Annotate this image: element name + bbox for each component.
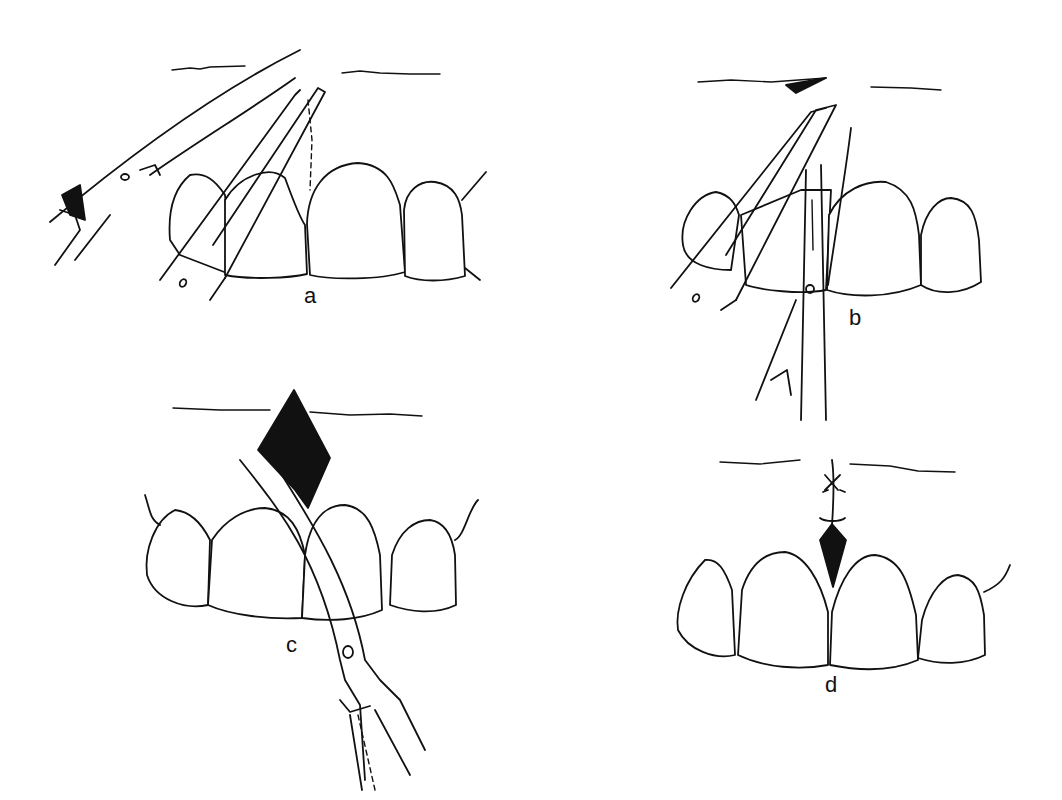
scissors-pivot-area [140, 165, 160, 175]
scissors-hinge-shading [62, 185, 85, 220]
vestibule-line-right [342, 71, 440, 74]
panel-b-drawing [531, 0, 1062, 420]
panel-a-drawing [0, 0, 531, 330]
hemostat-ring-mark [178, 278, 187, 288]
panel-label-a: a [304, 283, 316, 309]
scissors-handle-right [75, 215, 110, 260]
gingiva-line-right [455, 500, 478, 540]
tooth-lateral-right [918, 575, 985, 663]
tooth-central-left [741, 190, 831, 292]
remaining-wound-diamond [820, 524, 846, 587]
scissors-pivot-screw [121, 174, 129, 180]
tooth-central-right [302, 505, 382, 620]
gingiva-line-right-lower [465, 268, 480, 280]
vestibule-line-right [871, 87, 941, 90]
tooth-lateral-right [390, 520, 456, 611]
tooth-central-right [307, 163, 405, 278]
scissors-handle-joint [340, 700, 370, 712]
panel-d: d [660, 440, 1062, 700]
vestibule-line-left [720, 460, 800, 464]
tooth-central-left [208, 508, 305, 618]
gingiva-line-left [145, 495, 160, 525]
hemostat-shaft [721, 300, 736, 310]
scissors-pivot-screw [343, 646, 353, 658]
vestibule-line-left [172, 66, 245, 70]
vestibule-line-right [310, 412, 422, 416]
scissors-blade-lower [150, 78, 295, 175]
tooth-lateral-right [404, 182, 465, 281]
tooth-central-right [830, 555, 918, 669]
tooth-lateral-left [147, 510, 210, 606]
tooth-lateral-right [921, 198, 981, 292]
vestibule-line-left [173, 408, 270, 410]
panel-c-drawing [100, 380, 520, 800]
scissors-handle-joint [771, 370, 791, 395]
scissors-handle-right [375, 710, 410, 775]
tooth-central-left [225, 172, 307, 278]
hemostat-ring-mark [691, 293, 700, 303]
tooth-lateral-left [682, 192, 739, 270]
vestibule-line-right [850, 464, 955, 472]
gingiva-line-right [984, 565, 1010, 592]
hemostat-shaft [210, 278, 225, 300]
panel-a: a [0, 0, 531, 330]
panel-label-c: c [286, 632, 297, 658]
panel-b: b [531, 0, 1062, 420]
panel-c: c [100, 380, 520, 800]
panel-d-drawing [660, 440, 1062, 700]
tooth-central-left [738, 552, 828, 668]
panel-label-d: d [825, 672, 837, 698]
panel-label-b: b [849, 305, 861, 331]
frenum-outline [308, 100, 312, 190]
suture-incision-line [832, 460, 834, 525]
frenum-fibers [812, 200, 813, 250]
tooth-lateral-left [677, 560, 735, 656]
scissors-handle-left [55, 210, 80, 265]
gingiva-line-right [462, 172, 486, 200]
excised-frenum-diamond [258, 390, 330, 508]
